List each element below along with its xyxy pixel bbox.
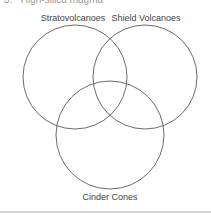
label-stratovolcanoes: Stratovolcanoes: [41, 13, 106, 23]
venn-circle-cinder-cones: [56, 81, 164, 189]
label-shield-volcanoes: Shield Volcanoes: [111, 13, 180, 23]
venn-circle-stratovolcanoes: [23, 25, 127, 129]
venn-diagram: [0, 0, 211, 215]
label-cinder-cones: Cinder Cones: [82, 192, 137, 202]
venn-circle-shield-volcanoes: [93, 25, 197, 129]
divider: [0, 211, 211, 213]
